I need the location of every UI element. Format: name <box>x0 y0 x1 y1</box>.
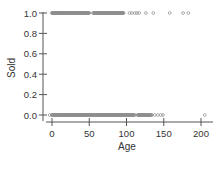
y-tick-label: 0.0 <box>24 110 37 121</box>
y-axis-label: Sold <box>6 58 17 78</box>
data-point <box>182 12 185 15</box>
x-tick-label: 0 <box>49 128 54 139</box>
data-point <box>152 12 155 15</box>
scatter-chart: 0.00.20.40.60.81.0 050100150200 Sold Age <box>0 0 224 170</box>
data-point <box>203 114 206 117</box>
y-tick-label: 0.6 <box>24 48 37 59</box>
y-tick-label: 0.8 <box>24 28 37 39</box>
x-tick-label: 50 <box>84 128 95 139</box>
data-point <box>144 12 147 15</box>
data-point <box>187 12 190 15</box>
x-tick-label: 150 <box>156 128 172 139</box>
x-tick-label: 100 <box>119 128 135 139</box>
y-tick-label: 0.4 <box>24 69 37 80</box>
x-axis: 050100150200 <box>46 118 213 139</box>
data-point <box>156 114 159 117</box>
y-axis: 0.00.20.40.60.81.0 <box>24 8 47 122</box>
data-point <box>168 12 171 15</box>
x-axis-label: Age <box>118 141 136 152</box>
data-points <box>48 12 206 117</box>
data-point <box>153 114 156 117</box>
y-tick-label: 0.2 <box>24 89 37 100</box>
y-tick-label: 1.0 <box>24 8 37 19</box>
x-tick-label: 200 <box>193 128 209 139</box>
